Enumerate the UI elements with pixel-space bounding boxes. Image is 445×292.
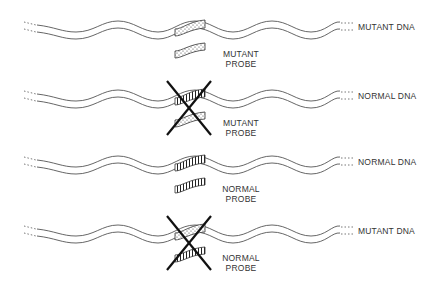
dna-label: MUTANT DNA	[358, 226, 415, 236]
row-1	[24, 20, 353, 58]
probe-label-line1: NORMAL	[218, 184, 264, 194]
row-2	[24, 81, 353, 135]
dna-ellipsis-right	[341, 23, 353, 30]
probe	[175, 43, 205, 58]
row-3	[24, 155, 353, 193]
diagram-canvas	[0, 0, 445, 292]
probe-label-line1: NORMAL	[218, 253, 264, 263]
probe-label-line1: MUTANT	[218, 49, 264, 59]
probe-label: MUTANT PROBE	[218, 49, 264, 69]
probe-label-line2: PROBE	[218, 59, 264, 69]
dna-ellipsis-left	[24, 22, 36, 32]
dna-label: MUTANT DNA	[358, 22, 415, 32]
probe-label-line2: PROBE	[218, 194, 264, 204]
probe-label-line2: PROBE	[218, 128, 264, 138]
dna-label: NORMAL DNA	[358, 91, 416, 101]
probe-label: NORMAL PROBE	[218, 253, 264, 273]
no-binding-cross-icon	[167, 216, 211, 270]
row-4	[24, 216, 353, 270]
probe-label-line2: PROBE	[218, 263, 264, 273]
probe-label: NORMAL PROBE	[218, 184, 264, 204]
dna-label: NORMAL DNA	[358, 157, 416, 167]
dna-target-segment	[175, 20, 205, 36]
no-binding-cross-icon	[167, 81, 211, 135]
probe-label-line1: MUTANT	[218, 118, 264, 128]
probe-label: MUTANT PROBE	[218, 118, 264, 138]
